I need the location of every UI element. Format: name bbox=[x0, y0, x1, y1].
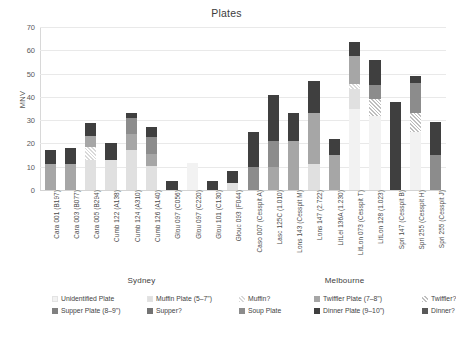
bar-segment-muffin_plate[interactable] bbox=[227, 183, 238, 190]
bar-segment-twiffler_plate[interactable] bbox=[146, 154, 157, 166]
x-axis-tick-labels: Cara 001 (B197)Cara 003 (B077)Cara 005 (… bbox=[40, 190, 446, 272]
bar[interactable] bbox=[227, 171, 238, 190]
bar-segment-twiffler_plate[interactable] bbox=[85, 136, 96, 146]
legend-item-soup_plate[interactable]: Soup Plate bbox=[239, 308, 314, 315]
bar[interactable] bbox=[308, 81, 319, 190]
bar-segment-soup_plate[interactable] bbox=[146, 137, 157, 153]
legend-label-supper_plate: Supper Plate (8–9") bbox=[61, 308, 120, 315]
bar[interactable] bbox=[268, 95, 279, 190]
bar-segment-dinner_plate[interactable] bbox=[45, 150, 56, 164]
bar[interactable] bbox=[187, 163, 198, 190]
bar-segment-soup_plate[interactable] bbox=[126, 118, 137, 134]
bar-segment-muffin_plate[interactable] bbox=[349, 89, 360, 109]
bar-segment-dinner_plate[interactable] bbox=[207, 181, 218, 190]
bar-segment-soup_plate[interactable] bbox=[268, 141, 279, 167]
bar-segment-dinner_plate[interactable] bbox=[430, 122, 441, 155]
bar-segment-dinner_plate[interactable] bbox=[65, 148, 76, 164]
bar-segment-unidentified_plate[interactable] bbox=[410, 132, 421, 190]
legend-label-dinner_plate: Dinner Plate (9–10") bbox=[323, 308, 384, 315]
bar-segment-twiffler_plate[interactable] bbox=[126, 134, 137, 150]
bar-segment-dinner_plate[interactable] bbox=[166, 181, 177, 190]
legend-item-unidentified_plate[interactable]: Unidentified Plate bbox=[52, 296, 147, 303]
legend-item-dinner[interactable]: Dinner? bbox=[422, 308, 456, 315]
bar-segment-dinner_plate[interactable] bbox=[349, 42, 360, 56]
legend-label-supper: Supper? bbox=[156, 308, 182, 315]
legend-swatch-unidentified_plate bbox=[52, 296, 58, 302]
group-label-sydney: Sydney bbox=[40, 276, 243, 285]
bar[interactable] bbox=[369, 60, 380, 190]
bar[interactable] bbox=[45, 150, 56, 190]
bar-segment-unidentified_plate[interactable] bbox=[369, 116, 380, 191]
bar-segment-twiffler_plate[interactable] bbox=[329, 155, 340, 190]
bar-segment-dinner_plate[interactable] bbox=[390, 102, 401, 190]
bar-segment-dinner_plate[interactable] bbox=[85, 123, 96, 137]
y-tick-label: 60 bbox=[16, 46, 38, 55]
legend-label-dinner: Dinner? bbox=[431, 308, 455, 315]
bar-segment-muffin[interactable] bbox=[85, 147, 96, 160]
bar[interactable] bbox=[248, 132, 259, 190]
bar[interactable] bbox=[410, 76, 421, 190]
bar-segment-dinner_plate[interactable] bbox=[248, 132, 259, 167]
bar-segment-twiffler_plate[interactable] bbox=[45, 164, 56, 190]
y-tick-label: 50 bbox=[16, 69, 38, 78]
bar-segment-dinner_plate[interactable] bbox=[288, 113, 299, 141]
bar-segment-soup_plate[interactable] bbox=[430, 155, 441, 190]
bar-segment-twiffler[interactable] bbox=[369, 99, 380, 115]
bar-segment-soup_plate[interactable] bbox=[369, 85, 380, 99]
legend-item-muffin[interactable]: Muffin? bbox=[239, 296, 314, 303]
bar[interactable] bbox=[166, 181, 177, 190]
bar[interactable] bbox=[207, 181, 218, 190]
legend-item-supper_plate[interactable]: Supper Plate (8–9") bbox=[52, 308, 147, 315]
bar-segment-unidentified_plate[interactable] bbox=[349, 109, 360, 191]
bar[interactable] bbox=[329, 139, 340, 190]
bar[interactable] bbox=[85, 122, 96, 190]
legend-label-twiffler_plate: Twiffler Plate (7–8") bbox=[323, 296, 382, 303]
x-tick-label: Cumb 126 (A140) bbox=[154, 190, 161, 242]
bar-segment-dinner_plate[interactable] bbox=[329, 139, 340, 155]
bar-segment-dinner_plate[interactable] bbox=[268, 95, 279, 142]
bar[interactable] bbox=[288, 113, 299, 190]
legend-item-twiffler_plate[interactable]: Twiffler Plate (7–8") bbox=[314, 296, 422, 303]
legend-item-supper[interactable]: Supper? bbox=[147, 308, 239, 315]
legend-swatch-twiffler_plate bbox=[314, 296, 320, 302]
bar[interactable] bbox=[349, 42, 360, 190]
bar-segment-twiffler_plate[interactable] bbox=[349, 56, 360, 84]
bar-segment-dinner_plate[interactable] bbox=[227, 171, 238, 183]
bar-segment-twiffler[interactable] bbox=[410, 113, 421, 132]
bar-segment-muffin_plate[interactable] bbox=[126, 150, 137, 190]
bar-segment-muffin_plate[interactable] bbox=[308, 164, 319, 190]
bar-segment-twiffler_plate[interactable] bbox=[65, 164, 76, 190]
bar-segment-dinner_plate[interactable] bbox=[410, 76, 421, 83]
x-tick-label: Cara 001 (B197) bbox=[53, 190, 60, 239]
bar-segment-muffin_plate[interactable] bbox=[85, 160, 96, 190]
bar-segment-dinner_plate[interactable] bbox=[146, 127, 157, 137]
x-tick-label: Spri 147 (Cesspit B) bbox=[398, 190, 405, 249]
legend-item-dinner_plate[interactable]: Dinner Plate (9–10") bbox=[314, 308, 422, 315]
x-tick-label: LitLon 128 (1.023) bbox=[377, 190, 384, 244]
legend-item-muffin_plate[interactable]: Muffin Plate (5–7") bbox=[147, 296, 239, 303]
bar[interactable] bbox=[146, 127, 157, 190]
bar-segment-muffin_plate[interactable] bbox=[105, 160, 116, 190]
bar[interactable] bbox=[105, 143, 116, 190]
bar-segment-soup_plate[interactable] bbox=[248, 167, 259, 190]
bar-segment-soup_plate[interactable] bbox=[410, 83, 421, 113]
bar-segment-muffin_plate[interactable] bbox=[146, 166, 157, 190]
bar-segment-dinner_plate[interactable] bbox=[308, 81, 319, 114]
bar-segment-unidentified_plate[interactable] bbox=[187, 163, 198, 190]
bar[interactable] bbox=[390, 102, 401, 190]
bar[interactable] bbox=[65, 148, 76, 190]
bar-segment-twiffler_plate[interactable] bbox=[268, 167, 279, 190]
bar-segment-dinner_plate[interactable] bbox=[369, 60, 380, 86]
bar-segment-twiffler_plate[interactable] bbox=[308, 113, 319, 164]
bar[interactable] bbox=[430, 122, 441, 190]
bar[interactable] bbox=[126, 113, 137, 190]
x-tick-label: Lons 143 (Cesspit M) bbox=[296, 190, 303, 253]
gridline bbox=[40, 74, 446, 75]
x-tick-label: LitLei 136A (1.230) bbox=[337, 190, 344, 246]
y-tick-label: 20 bbox=[16, 139, 38, 148]
bar-segment-twiffler_plate[interactable] bbox=[288, 141, 299, 190]
bar-segment-dinner_plate[interactable] bbox=[105, 143, 116, 159]
y-tick-label: 30 bbox=[16, 116, 38, 125]
legend-item-twiffler[interactable]: Twiffler? bbox=[422, 296, 456, 303]
